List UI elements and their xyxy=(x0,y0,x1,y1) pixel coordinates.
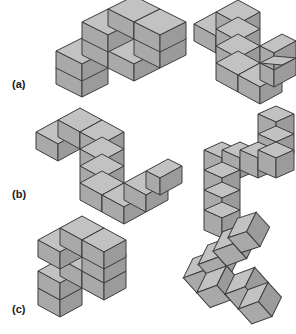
row-label-a: (a) xyxy=(12,78,25,90)
row-b-left-shape xyxy=(34,118,182,202)
cube xyxy=(146,159,182,195)
row-a-left-shape xyxy=(46,8,186,100)
row-a-right-shape xyxy=(192,10,296,106)
row-b-right-shape xyxy=(194,108,294,216)
cube xyxy=(258,142,294,178)
row-c-left-shape xyxy=(36,226,148,320)
row-label-c: (c) xyxy=(12,303,25,315)
mental-rotation-figure: (a) xyxy=(0,0,296,334)
cube xyxy=(260,56,296,87)
row-c-right-shape xyxy=(184,222,296,334)
row-label-b: (b) xyxy=(12,188,26,200)
